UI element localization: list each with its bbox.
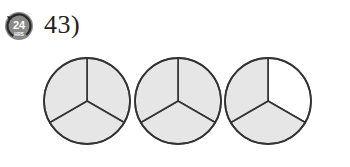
fraction-circle [225,58,311,144]
fraction-circles-figure [0,0,350,167]
fraction-circle [44,58,130,144]
fraction-circle [135,58,221,144]
